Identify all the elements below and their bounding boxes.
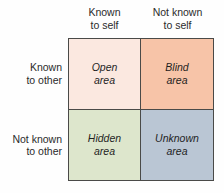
row-label-line1: Known (30, 61, 62, 74)
quadrant-hidden-area: Hidden area (69, 110, 141, 181)
johari-window-diagram: Known to self Not known to self Known to… (0, 0, 224, 193)
row-label-line2: to other (26, 74, 62, 87)
row-label-column: Known to other Not known to other (0, 38, 62, 181)
quadrant-label-line1: Hidden (88, 132, 121, 145)
matrix-grid: Open area Blind area Hidden area Unknown… (68, 38, 214, 181)
quadrant-label-line2: area (94, 74, 115, 87)
column-header-row: Known to self Not known to self (68, 6, 214, 38)
column-header-known-to-self: Known to self (68, 6, 141, 38)
quadrant-label-line2: area (166, 145, 187, 158)
quadrant-unknown-area: Unknown area (141, 110, 213, 181)
quadrant-label-line1: Open (92, 61, 118, 74)
column-header-line1: Not known (141, 6, 214, 19)
column-header-not-known-to-self: Not known to self (141, 6, 214, 38)
row-label-known-to-other: Known to other (0, 38, 62, 110)
column-header-line2: to self (141, 19, 214, 32)
row-label-line1: Not known (12, 133, 62, 146)
row-label-not-known-to-other: Not known to other (0, 110, 62, 182)
quadrant-label-line1: Blind (165, 61, 188, 74)
quadrant-label-line1: Unknown (155, 132, 199, 145)
column-header-line1: Known (68, 6, 141, 19)
column-header-line2: to self (68, 19, 141, 32)
row-label-line2: to other (26, 145, 62, 158)
quadrant-blind-area: Blind area (141, 39, 213, 110)
quadrant-open-area: Open area (69, 39, 141, 110)
quadrant-label-line2: area (94, 145, 115, 158)
quadrant-label-line2: area (166, 74, 187, 87)
